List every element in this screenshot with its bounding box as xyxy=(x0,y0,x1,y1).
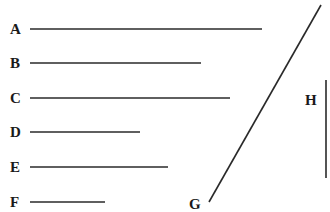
segment-h: H xyxy=(305,80,326,178)
segment-label-a: A xyxy=(10,21,21,37)
line-segments-diagram: ABCDEFGH xyxy=(0,0,330,212)
segment-label-e: E xyxy=(10,159,20,175)
diagram-svg: ABCDEFGH xyxy=(0,0,330,212)
segment-f: F xyxy=(10,194,105,210)
segment-e: E xyxy=(10,159,168,175)
segment-label-f: F xyxy=(10,194,19,210)
segment-a: A xyxy=(10,21,262,37)
segment-g: G xyxy=(189,5,321,212)
segment-label-c: C xyxy=(10,90,21,106)
segment-c: C xyxy=(10,90,230,106)
segment-label-d: D xyxy=(10,124,21,140)
segment-label-g: G xyxy=(189,196,201,212)
segment-b: B xyxy=(10,55,201,71)
segment-label-h: H xyxy=(305,92,317,108)
segment-d: D xyxy=(10,124,140,140)
segment-label-b: B xyxy=(10,55,20,71)
